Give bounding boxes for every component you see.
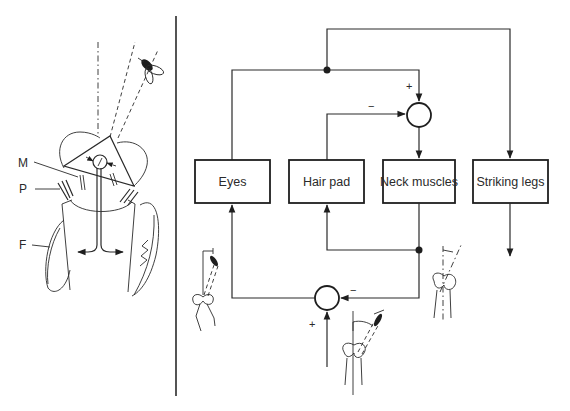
mantis-illustration: M P F: [18, 42, 165, 296]
label-m: M: [18, 156, 28, 170]
mantis-control-diagram: M P F + − Eyes Hair pad Neck muscles: [0, 0, 570, 411]
signal-eyes-to-sum: [232, 70, 419, 160]
hair-pad-label: Hair pad: [303, 175, 350, 189]
striking-legs-block: Striking legs: [473, 160, 548, 203]
top-summing-junction: [407, 103, 431, 127]
fly-icon: [372, 313, 383, 328]
top-sum-minus: −: [368, 100, 374, 112]
prothorax-left: [62, 204, 70, 290]
gaze-line: [118, 50, 158, 138]
right-compound-eye: [117, 142, 147, 186]
left-compound-eye: [60, 132, 100, 168]
signal-hairpad-to-sum: [327, 114, 405, 160]
neck-feedback-to-hairpad: [327, 205, 419, 250]
bottom-summing-junction: [315, 286, 339, 310]
mantis-pictogram-right: [433, 243, 462, 320]
striking-legs-label: Striking legs: [476, 175, 544, 189]
head-outline: [64, 136, 134, 186]
bottom-sum-minus: −: [350, 284, 356, 296]
block-diagram: + − Eyes Hair pad Neck muscles Striking …: [193, 29, 548, 395]
prothorax-right: [128, 204, 135, 292]
eyes-block: Eyes: [195, 160, 270, 203]
label-f: F: [19, 238, 26, 252]
gaze-line: [110, 42, 135, 137]
right-foreleg: [132, 203, 159, 296]
top-sum-plus: +: [406, 80, 412, 92]
hair-pad-block: Hair pad: [289, 160, 364, 203]
mantis-pictogram-bottom: [343, 310, 384, 395]
label-p: P: [19, 182, 27, 196]
eyes-label: Eyes: [219, 175, 247, 189]
fly-target-icon: [138, 57, 165, 84]
label-leader-m: [34, 162, 78, 177]
label-leader-f: [32, 245, 50, 247]
signal-bottom-sum-to-eyes: [232, 205, 315, 298]
neck-muscles-label: Neck muscles: [380, 175, 458, 189]
branch-point: [324, 67, 331, 74]
branch-point: [416, 247, 423, 254]
neck-muscles-block: Neck muscles: [380, 160, 458, 203]
mantis-pictogram-eyes: [193, 248, 220, 331]
bottom-sum-plus: +: [309, 318, 315, 330]
